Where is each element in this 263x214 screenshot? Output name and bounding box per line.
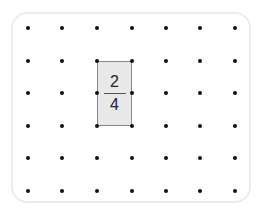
grid-dot — [95, 189, 99, 193]
grid-dot — [164, 189, 168, 193]
grid-dot — [130, 189, 134, 193]
grid-dot — [60, 26, 64, 30]
grid-dot — [60, 91, 64, 95]
grid-dot — [233, 59, 237, 63]
grid-dot — [233, 189, 237, 193]
grid-dot — [164, 26, 168, 30]
grid-dot — [60, 156, 64, 160]
fraction-numerator: 2 — [110, 73, 119, 91]
grid-dot — [60, 59, 64, 63]
fraction-label: 2 4 — [97, 61, 132, 126]
grid-dot — [164, 156, 168, 160]
grid-dot — [233, 124, 237, 128]
grid-dot — [198, 59, 202, 63]
grid-dot — [26, 189, 30, 193]
grid-dot — [164, 124, 168, 128]
grid-dot — [198, 26, 202, 30]
fraction-bar — [104, 93, 126, 95]
grid-dot — [95, 26, 99, 30]
grid-dot — [233, 156, 237, 160]
grid-dot — [164, 91, 168, 95]
grid-dot — [198, 124, 202, 128]
grid-dot — [233, 26, 237, 30]
fraction-denominator: 4 — [110, 96, 119, 114]
grid-dot — [60, 124, 64, 128]
grid-dot — [198, 91, 202, 95]
grid-dot — [26, 124, 30, 128]
grid-dot — [198, 189, 202, 193]
grid-dot — [164, 59, 168, 63]
grid-dot — [233, 91, 237, 95]
grid-dot — [26, 59, 30, 63]
grid-dot — [26, 26, 30, 30]
grid-dot — [198, 156, 202, 160]
grid-dot — [130, 26, 134, 30]
grid-dot — [26, 91, 30, 95]
grid-dot — [130, 156, 134, 160]
grid-dot — [60, 189, 64, 193]
grid-dot — [95, 156, 99, 160]
grid-dot — [26, 156, 30, 160]
